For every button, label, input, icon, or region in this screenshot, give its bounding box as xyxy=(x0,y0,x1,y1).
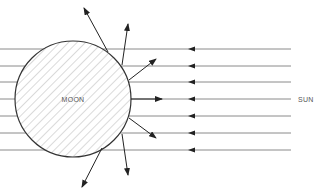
sun-label: SUN xyxy=(298,96,314,103)
arrowhead-icon xyxy=(188,64,195,69)
arrowhead-icon xyxy=(188,114,195,119)
moon-label: MOON xyxy=(62,96,85,103)
arrowhead-icon xyxy=(188,131,195,136)
arrowhead-icon xyxy=(188,80,195,85)
arrowhead-icon xyxy=(188,97,195,102)
moon-sun-reflection-diagram: MOON SUN xyxy=(0,0,327,195)
arrowhead-icon xyxy=(188,148,195,153)
reflected-ray xyxy=(129,59,156,80)
moon: MOON xyxy=(15,41,131,157)
reflected-ray xyxy=(122,24,128,65)
reflected-ray xyxy=(129,118,156,138)
arrowhead-icon xyxy=(188,47,195,52)
reflected-ray xyxy=(122,134,128,175)
